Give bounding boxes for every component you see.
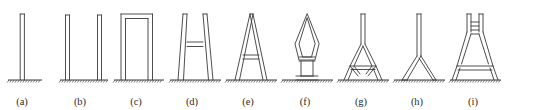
structure-c <box>113 14 164 83</box>
structure-d <box>169 14 221 83</box>
structure-e <box>225 14 277 83</box>
structure-g <box>337 14 389 83</box>
panel-label-a: (a) <box>2 96 42 108</box>
ground-support-a <box>7 80 42 83</box>
panel-label-b: (b) <box>60 96 100 108</box>
ground-support-d <box>169 80 221 83</box>
ground-support-i <box>449 80 501 83</box>
structure-i <box>449 14 501 83</box>
figure-topology-optimized-structures: (a) (b) (c) (d) (e) (f) (g) (h) (i) <box>0 0 535 110</box>
ground-support-f <box>281 80 333 83</box>
ground-support-c <box>113 80 164 83</box>
structure-f <box>281 14 333 83</box>
panel-label-e: (e) <box>228 96 268 108</box>
panel-label-d: (d) <box>172 96 212 108</box>
ground-support-h <box>393 80 445 83</box>
panel-label-g: (g) <box>341 96 381 108</box>
panel-label-h: (h) <box>397 96 437 108</box>
ground-support-e <box>225 80 277 83</box>
panel-label-c: (c) <box>116 96 156 108</box>
structure-a <box>7 14 42 83</box>
structure-h <box>393 14 445 83</box>
panel-label-f: (f) <box>285 96 325 108</box>
figure-canvas <box>0 0 535 110</box>
structure-b <box>59 15 108 83</box>
panel-label-i: (i) <box>453 96 493 108</box>
ground-support-b <box>59 80 108 83</box>
ground-support-g <box>337 80 389 83</box>
